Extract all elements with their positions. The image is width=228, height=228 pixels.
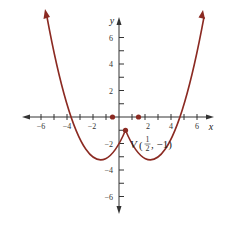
curve-left-arrow-icon — [44, 9, 51, 19]
curve-path — [47, 17, 204, 160]
vertex-y-value: , −1) — [151, 138, 172, 151]
y-tick-label: −6 — [104, 193, 113, 202]
y-tick-label: 2 — [109, 87, 113, 96]
y-tick-label: 4 — [109, 60, 113, 69]
x-intercept-left-point — [110, 114, 115, 119]
x-tick-label: 6 — [195, 122, 199, 131]
y-tick-label: −2 — [104, 140, 113, 149]
parabola-curve — [44, 9, 206, 160]
y-axis: 6 4 2 −2 −4 −6 y — [104, 15, 124, 214]
x-tick-label: −2 — [88, 122, 97, 131]
x-tick-label: −4 — [63, 122, 72, 131]
y-tick-label: −4 — [104, 166, 113, 175]
parabola-graph: −6 −4 −2 2 4 6 x 6 4 2 −2 −4 −6 — [0, 0, 228, 228]
x-axis: −6 −4 −2 2 4 6 x — [22, 114, 214, 132]
x-tick-label: −6 — [37, 122, 46, 131]
y-axis-label: y — [109, 15, 115, 26]
y-axis-up-arrow-icon — [117, 17, 122, 25]
x-intercept-right-point — [136, 114, 141, 119]
vertex-fraction-denominator: 2 — [146, 144, 150, 153]
x-axis-left-arrow-icon — [22, 115, 30, 120]
vertex-open-paren: ( — [139, 139, 143, 152]
x-tick-label: 4 — [169, 122, 173, 131]
x-axis-right-arrow-icon — [206, 115, 214, 120]
x-tick-label: 2 — [146, 122, 150, 131]
y-tick-label: 6 — [109, 34, 113, 43]
x-axis-label: x — [208, 121, 214, 132]
vertex-letter: V — [130, 138, 138, 150]
vertex-fraction-numerator: 1 — [146, 135, 150, 144]
y-axis-down-arrow-icon — [117, 206, 122, 214]
curve-right-arrow-icon — [199, 10, 206, 19]
vertex-point — [123, 128, 128, 133]
